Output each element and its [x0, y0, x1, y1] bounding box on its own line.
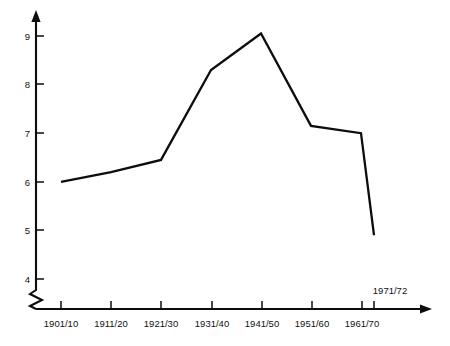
- x-tick-labels: 1901/10 1911/20 1921/30 1931/40 1941/50 …: [44, 285, 407, 329]
- y-tick-label-8: 8: [25, 79, 30, 90]
- y-tick-marks: [36, 36, 44, 279]
- y-tick-label-7: 7: [25, 128, 30, 139]
- line-chart-figure: 9 8 7 6 5 4 1901/10 1911/20 1921/30 1931…: [0, 0, 450, 346]
- x-tick-label-1901-10: 1901/10: [44, 318, 78, 329]
- y-tick-label-4: 4: [25, 274, 30, 285]
- y-axis: [30, 10, 42, 309]
- x-tick-label-1911-20: 1911/20: [94, 318, 128, 329]
- x-tick-marks: [61, 301, 374, 309]
- arrow-right-icon: [420, 304, 432, 313]
- x-axis: [36, 304, 432, 313]
- y-tick-labels: 9 8 7 6 5 4: [25, 31, 30, 285]
- y-tick-label-5: 5: [25, 225, 30, 236]
- y-tick-label-9: 9: [25, 31, 30, 42]
- x-tick-label-1951-60: 1951/60: [295, 318, 329, 329]
- x-tick-label-1971-72: 1971/72: [373, 285, 407, 296]
- x-tick-label-1941-50: 1941/50: [245, 318, 279, 329]
- axis-break-zigzag-icon: [30, 284, 42, 309]
- x-tick-label-1931-40: 1931/40: [195, 318, 229, 329]
- arrow-up-icon: [31, 10, 40, 22]
- x-tick-label-1921-30: 1921/30: [144, 318, 178, 329]
- chart-canvas: 9 8 7 6 5 4 1901/10 1911/20 1921/30 1931…: [0, 0, 450, 346]
- y-tick-label-6: 6: [25, 177, 30, 188]
- data-series-line: [61, 34, 374, 236]
- x-tick-label-1961-70: 1961/70: [345, 318, 379, 329]
